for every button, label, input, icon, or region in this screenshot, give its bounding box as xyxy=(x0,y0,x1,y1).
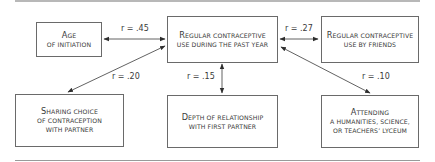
node-depth-line-2: with first partner xyxy=(189,122,257,131)
node-depth-line-1: Depth of relationship xyxy=(182,113,264,122)
edge-label-center-friends: r = .27 xyxy=(285,24,313,33)
node-friends-line-2: use by friends xyxy=(344,40,396,49)
node-sharing: Sharing choice of contraception with par… xyxy=(15,94,124,147)
node-lyceum: Attending a humanities, science, or teac… xyxy=(321,95,419,148)
node-age: Age of initiation xyxy=(36,22,102,57)
node-friends-line-1: Regular contraceptive xyxy=(327,31,414,40)
node-lyceum-line-2: a humanities, science, xyxy=(330,117,410,126)
node-sharing-line-3: with partner xyxy=(46,125,94,134)
edge-label-sharing-center: r = .20 xyxy=(112,72,140,81)
edge-label-age-center: r = .45 xyxy=(121,24,149,33)
node-age-line-2: of initiation xyxy=(47,40,91,49)
node-friends: Regular contraceptive use by friends xyxy=(321,16,419,63)
bottom-rule xyxy=(15,160,420,161)
node-sharing-line-1: Sharing choice xyxy=(41,107,98,116)
node-center-line-1: Regular contraceptive xyxy=(179,31,266,40)
node-age-line-1: Age xyxy=(62,31,77,40)
node-lyceum-line-3: or teachers’ lyceum xyxy=(333,126,407,135)
node-lyceum-line-1: Attending xyxy=(351,108,390,117)
node-sharing-line-2: of contraception xyxy=(37,116,102,125)
edge-label-lyceum-center: r = .10 xyxy=(362,72,390,81)
node-center-line-2: use during the past year xyxy=(177,40,268,49)
node-center: Regular contraceptive use during the pas… xyxy=(167,16,278,63)
edge-label-depth-center: r = .15 xyxy=(187,72,215,81)
node-depth: Depth of relationship with first partner xyxy=(167,95,278,148)
